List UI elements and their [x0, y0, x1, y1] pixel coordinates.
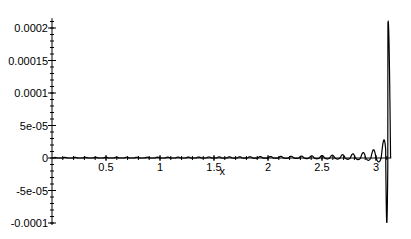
y-tick-label: 5e-05	[20, 120, 48, 132]
y-tick-label: -5e-05	[16, 185, 48, 197]
y-tick-label: 0.0001	[14, 87, 48, 99]
y-tick-label: 0.0002	[14, 22, 48, 34]
chart: 0.00020.000150.00015e-050-5e-05-0.0001 0…	[0, 0, 411, 239]
y-tick-label: 0.00015	[8, 55, 48, 67]
x-tick-label: 3	[373, 161, 379, 173]
x-tick-label: 2.5	[314, 161, 329, 173]
x-tick-label: 2	[265, 161, 271, 173]
y-tick-label: 0	[42, 152, 48, 164]
x-tick-label: 1	[157, 161, 163, 173]
y-axis: 0.00020.000150.00015e-050-5e-05-0.0001	[8, 18, 56, 229]
y-tick-label: -0.0001	[11, 217, 48, 229]
x-tick-label: 0.5	[98, 161, 113, 173]
x-axis-label: x	[219, 165, 225, 177]
data-line	[54, 22, 390, 223]
